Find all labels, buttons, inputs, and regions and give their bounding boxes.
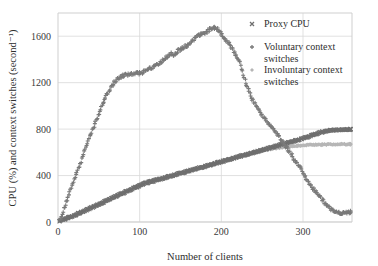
legend-label-2-line2: switches <box>264 76 299 87</box>
y-tick-label: 1200 <box>31 77 51 88</box>
x-tick-label: 100 <box>132 226 147 237</box>
legend-label-2: Involuntary context <box>264 64 343 75</box>
x-tick-label: 300 <box>296 226 311 237</box>
legend-label-1: Voluntary context <box>264 41 335 52</box>
x-tick-label: 200 <box>214 226 229 237</box>
y-tick-label: 1600 <box>31 31 51 42</box>
y-axis-title: CPU (%) and context switches (second⁻¹) <box>7 29 19 206</box>
y-tick-label: 0 <box>46 217 51 228</box>
legend-label-0: Proxy CPU <box>264 18 311 29</box>
scatter-chart: 0100200300 040080012001600 Number of cli… <box>0 0 378 266</box>
chart-figure: 0100200300 040080012001600 Number of cli… <box>0 0 378 266</box>
legend-label-1-line2: switches <box>264 53 299 64</box>
x-tick-label: 0 <box>56 226 61 237</box>
x-axis-title: Number of clients <box>167 251 243 262</box>
y-tick-label: 800 <box>36 124 51 135</box>
y-tick-label: 400 <box>36 170 51 181</box>
